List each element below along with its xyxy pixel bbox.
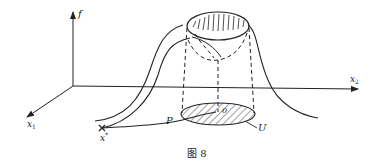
- f-axis-label: f: [77, 8, 84, 19]
- x1-axis-label: x1: [27, 119, 36, 130]
- region-u: [181, 103, 255, 125]
- path-p-label: P: [165, 115, 173, 126]
- axes: [27, 12, 358, 117]
- hidden-lines: [182, 28, 254, 113]
- u-leader-line: [245, 121, 257, 128]
- x2-axis: [73, 86, 358, 89]
- x1-axis: [27, 86, 73, 117]
- origin-label: 0: [222, 106, 227, 115]
- cylinder-left-dashed: [182, 28, 187, 113]
- rim-hatching: [193, 14, 244, 31]
- region-u-label: U: [258, 122, 267, 133]
- surface-right-curve: [248, 25, 318, 118]
- cylinder-right-dashed: [249, 28, 254, 113]
- figure-caption: 图 8: [187, 148, 207, 159]
- x-star-label: x*: [100, 131, 108, 143]
- figure-8-diagram: f x1 x2 x* P 0 U 图 8: [0, 0, 378, 165]
- surface-left-front-curve: [102, 38, 190, 128]
- x2-axis-label: x2: [350, 74, 359, 85]
- bowl-bottom-dashed: [188, 30, 248, 60]
